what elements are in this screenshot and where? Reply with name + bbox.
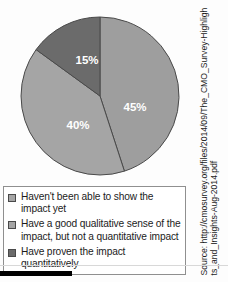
- pie-chart: 45% 40% 15%: [18, 14, 182, 178]
- legend-item-label: Have proven the impact quantitatively: [21, 246, 182, 270]
- pie-slice-label-45: 45%: [123, 101, 146, 113]
- pie-slice-label-40: 40%: [66, 119, 89, 131]
- legend-item-label: Haven't been able to show the impact yet: [21, 191, 182, 215]
- source-citation-text: Source: http://cmosurvey.org/files/2014/…: [199, 7, 220, 275]
- legend-item-0[interactable]: Haven't been able to show the impact yet: [8, 191, 182, 215]
- legend-swatch-icon: [8, 194, 16, 202]
- bottom-black-bar: [0, 271, 72, 276]
- pie-svg: 45% 40% 15%: [18, 14, 182, 178]
- legend-item-label: Have a good qualitative sense of the imp…: [21, 218, 182, 242]
- pie-slice-label-15: 15%: [75, 54, 98, 66]
- bottom-divider: [0, 265, 228, 266]
- legend-swatch-icon: [8, 221, 16, 229]
- legend-item-2[interactable]: Have proven the impact quantitatively: [8, 246, 182, 270]
- chart-legend: Haven't been able to show the impact yet…: [3, 186, 186, 275]
- legend-swatch-icon: [8, 249, 16, 257]
- pie-chart-figure: 45% 40% 15% Haven't been able to show th…: [0, 0, 228, 282]
- source-citation: Source: http://cmosurvey.org/files/2014/…: [188, 0, 228, 282]
- legend-item-1[interactable]: Have a good qualitative sense of the imp…: [8, 218, 182, 242]
